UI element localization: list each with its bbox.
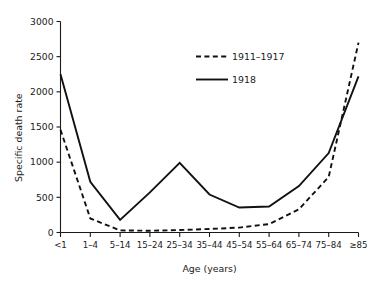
x-tick-label: 1–4: [83, 240, 98, 250]
x-axis-tick-labels: <11–45–1415–2425–3435–4445–5455–6465–747…: [54, 240, 367, 250]
x-tick-label: 15–24: [137, 240, 163, 250]
x-tick-label: 55–64: [256, 240, 282, 250]
y-axis-ticks: [57, 22, 61, 233]
y-tick-label: 2000: [30, 86, 54, 97]
x-tick-label: 75–84: [316, 240, 342, 250]
y-tick-label: 500: [36, 192, 54, 203]
x-tick-label: ≥85: [349, 240, 367, 250]
legend-label-1911-1917: 1911–1917: [232, 51, 284, 62]
y-tick-label: 3000: [30, 16, 54, 27]
x-tick-label: 5–14: [110, 240, 131, 250]
line-chart: 050010001500200025003000 <11–45–1415–242…: [0, 0, 379, 285]
x-tick-label: 25–34: [167, 240, 193, 250]
x-axis-ticks: [61, 233, 359, 238]
x-tick-label: 45–54: [226, 240, 252, 250]
series-line-1918: [61, 74, 359, 220]
y-axis-title: Specific death rate: [13, 93, 24, 182]
x-axis-title: Age (years): [182, 263, 236, 274]
data-series-group: [61, 43, 359, 231]
chart-container: 050010001500200025003000 <11–45–1415–242…: [0, 0, 379, 285]
legend-label-1918: 1918: [232, 74, 256, 85]
y-tick-label: 2500: [30, 51, 54, 62]
y-tick-label: 1000: [30, 156, 54, 167]
x-tick-label: 35–44: [196, 240, 222, 250]
series-line-1911-1917: [61, 43, 359, 231]
chart-legend: 1911–1917 1918: [196, 51, 284, 85]
y-tick-label: 0: [48, 227, 54, 238]
y-axis-tick-labels: 050010001500200025003000: [30, 16, 54, 238]
x-tick-label: <1: [54, 240, 67, 250]
y-tick-label: 1500: [30, 121, 54, 132]
x-tick-label: 65–74: [286, 240, 312, 250]
